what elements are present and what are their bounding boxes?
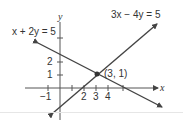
divider: [0, 112, 183, 113]
y-tick-label-1: 1: [47, 70, 53, 80]
y-tick-label-2: 2: [47, 57, 53, 67]
x-tick-label-4: 4: [105, 92, 111, 102]
equation-label-2: 3x − 4y = 5: [111, 10, 160, 20]
x-tick-label-2: 2: [81, 92, 87, 102]
x-axis-label: x: [160, 83, 164, 93]
y-axis-label: y: [58, 12, 62, 22]
line-x-plus-2y-eq-5: [38, 43, 162, 107]
intersection-point: [95, 72, 100, 77]
point-label: (3, 1): [104, 69, 127, 79]
x-tick-label-3: 3: [93, 92, 99, 102]
equation-label-1: x + 2y = 5: [12, 27, 56, 37]
x-tick-label-neg1: −1: [40, 92, 51, 102]
